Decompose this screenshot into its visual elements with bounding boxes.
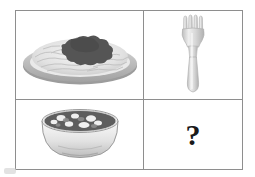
puzzle-cell-top-left[interactable] [16,11,144,100]
fork-icon [176,13,210,97]
plate-of-spaghetti-icon [21,22,139,88]
bowl-of-soup-icon [34,106,126,164]
puzzle-cell-bottom-left[interactable] [16,100,144,169]
scan-artifact [4,168,16,174]
analogy-puzzle-grid: ? [15,10,243,170]
puzzle-cell-top-right[interactable] [144,11,242,100]
puzzle-cell-bottom-right[interactable]: ? [144,100,242,169]
question-mark-icon: ? [186,120,201,150]
